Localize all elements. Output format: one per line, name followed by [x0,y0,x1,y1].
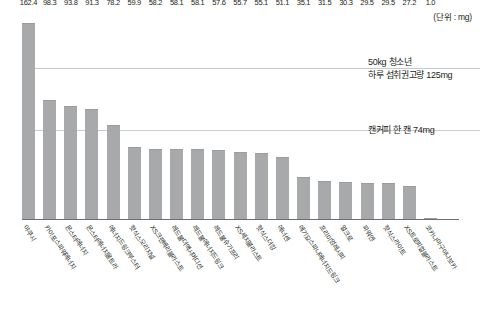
bar-slot: 27.2 [403,8,416,219]
plot-area: 162.498.393.891.378.259.958.258.158.157.… [22,8,437,220]
bar [403,186,416,219]
bar-slot: 58.1 [191,8,204,219]
x-axis-label-slot: 프리미엄레시피 [318,222,331,318]
x-axis-label-slot: 파워엔 [361,222,374,318]
x-axis-label-slot: XS트로피컬블라스트 [403,222,416,318]
reference-line-label: 캔커피 한 캔 74mg [368,124,434,137]
bar [191,149,204,219]
bar-slot: 30.3 [339,8,352,219]
x-axis-label: 코카나아구아나보카 [424,224,458,270]
bar-value-label: 91.3 [85,0,98,7]
reference-label-line1: 캔커피 한 캔 74mg [368,124,434,137]
bar-series: 162.498.393.891.378.259.958.258.158.157.… [22,8,437,219]
x-axis-label-slot: 코카나아구아나보카 [424,222,437,318]
bar-slot: 57.6 [212,8,225,219]
bar-slot: 51.1 [276,8,289,219]
bar-slot: 59.9 [128,8,141,219]
x-axis-label: 얼크로 [340,224,355,242]
bar-value-label: 93.8 [64,0,77,7]
bar [64,106,77,219]
bar [234,152,247,219]
x-axis-label-slot: 에너센 [276,222,289,318]
bar [297,177,310,219]
caffeine-bar-chart: (단위 : mg) 162.498.393.891.378.259.958.25… [0,0,482,320]
bar-value-label: 162.4 [20,0,37,7]
bar-value-label: 35.1 [297,0,310,7]
bar-value-label: 31.5 [318,0,331,7]
bar-value-label: 58.1 [170,0,183,7]
x-axis-label-slot: XS크랜베리블라스트 [149,222,162,318]
x-axis-label: 파워엔 [361,224,376,242]
x-axis-label-slot: 야쿠시 [22,222,35,318]
bar-value-label: 55.1 [255,0,268,7]
bar [318,181,331,219]
bar-slot: 91.3 [85,8,98,219]
x-axis-label-slot: 레드불슈가프리 [212,222,225,318]
bar [22,23,35,219]
bar-value-label: 59.9 [128,0,141,7]
bar [424,218,437,219]
x-axis-label-slot: 몬스터에너지울트라 [85,222,98,318]
bar-slot: 93.8 [64,8,77,219]
x-axis-label: 야쿠시 [22,224,37,242]
bar-value-label: 58.2 [149,0,162,7]
bar-slot: 55.1 [255,8,268,219]
bar [361,183,374,219]
bar-value-label: 58.1 [191,0,204,7]
bar-value-label: 30.3 [339,0,352,7]
x-axis-label-slot: 에너지드링크부스터 [107,222,120,318]
bar-slot: 98.3 [43,8,56,219]
bar [107,125,120,219]
bar-slot: 29.5 [382,8,395,219]
bar-slot: 58.1 [170,8,183,219]
bar [170,149,183,219]
bar-value-label: 57.6 [212,0,225,7]
x-axis-label-slot: 카이포스파워에너지 [43,222,56,318]
x-axis-labels: 야쿠시카이포스파워에너지몬스터에너지몬스터에너지울트라에너지드링크부스터핫식스오… [22,222,437,318]
bar [212,150,225,219]
bar [382,183,395,219]
x-axis-label-slot: 몬스터에너지 [64,222,77,318]
x-axis-label-slot: 레드불에너지드링크 [191,222,204,318]
x-axis-label-slot: XS세지블라스트 [234,222,247,318]
x-axis-label: 핫식스더킹 [255,224,277,251]
bar [85,109,98,219]
bar-slot: 35.1 [297,8,310,219]
x-axis-baseline [22,219,459,220]
x-axis-label-slot: 핫식스더킹 [255,222,268,318]
bar-slot: 31.5 [318,8,331,219]
bar-value-label: 29.5 [360,0,373,7]
bar-value-label: 55.7 [233,0,246,7]
bar [43,100,56,219]
x-axis-label-slot: 핫식스오리지널 [128,222,141,318]
bar-slot: 55.7 [234,8,247,219]
bar-slot: 1.0 [424,8,437,219]
x-axis-label-slot: 핫식스라이트 [382,222,395,318]
bar-slot: 58.2 [149,8,162,219]
bar-value-label: 51.1 [276,0,289,7]
bar [276,157,289,219]
bar-value-label: 1.0 [426,0,436,7]
bar-value-label: 29.5 [381,0,394,7]
bar [339,182,352,219]
reference-label-line1: 50kg 청소년 [368,56,452,69]
x-axis-label-slot: 에기요스파나에너지드링크 [297,222,310,318]
bar-slot: 29.5 [361,8,374,219]
bar-value-label: 98.3 [43,0,56,7]
unit-note: (단위 : mg) [433,10,472,22]
reference-label-line2: 하루 섭취권고량 125mg [368,69,452,82]
bar [128,147,141,219]
bar [149,149,162,219]
bar-value-label: 27.2 [403,0,416,7]
x-axis-label-slot: 레드불더맥시머디션 [170,222,183,318]
x-axis-label-slot: 얼크로 [339,222,352,318]
bar-value-label: 78.2 [106,0,119,7]
bar-slot: 78.2 [107,8,120,219]
bar-slot: 162.4 [22,8,35,219]
bar [255,153,268,219]
x-axis-label: 에너센 [276,224,291,242]
reference-line-label: 50kg 청소년하루 섭취권고량 125mg [368,56,452,81]
